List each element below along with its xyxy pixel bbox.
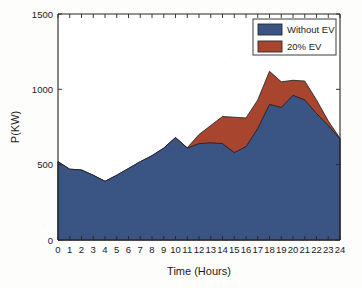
x-tick-label: 1 [67, 244, 72, 255]
x-tick-label: 3 [91, 244, 96, 255]
x-tick-label: 0 [55, 244, 60, 255]
x-axis-tick-labels: 0123456789101112131415161718192021222324 [55, 244, 345, 255]
y-tick-label: 1500 [32, 9, 53, 20]
x-tick-label: 22 [311, 244, 322, 255]
x-tick-label: 4 [102, 244, 107, 255]
y-tick-label: 500 [37, 159, 53, 170]
legend-swatch [258, 41, 282, 52]
x-tick-label: 2 [79, 244, 84, 255]
x-tick-label: 10 [170, 244, 181, 255]
x-tick-label: 24 [335, 244, 346, 255]
x-tick-label: 6 [126, 244, 131, 255]
x-tick-label: 18 [264, 244, 275, 255]
area-chart: 0123456789101112131415161718192021222324… [0, 0, 362, 288]
x-tick-label: 11 [182, 244, 192, 255]
y-axis-label: P(KW) [9, 111, 21, 143]
y-tick-label: 1000 [32, 84, 53, 95]
legend-label: Without EV [287, 24, 335, 35]
y-tick-label: 0 [48, 235, 53, 246]
legend-swatch [258, 24, 282, 35]
x-axis-label: Time (Hours) [167, 265, 231, 277]
x-tick-label: 8 [149, 244, 154, 255]
x-tick-label: 21 [299, 244, 310, 255]
x-tick-label: 14 [217, 244, 228, 255]
x-tick-label: 17 [252, 244, 263, 255]
x-tick-label: 15 [229, 244, 240, 255]
x-tick-label: 13 [205, 244, 216, 255]
x-tick-label: 20 [288, 244, 299, 255]
chart-legend[interactable]: Without EV20% EV [253, 19, 336, 55]
x-tick-label: 9 [161, 244, 166, 255]
x-tick-label: 7 [138, 244, 143, 255]
legend-label: 20% EV [287, 41, 322, 52]
y-axis-tick-labels: 050010001500 [32, 9, 53, 246]
x-tick-label: 23 [323, 244, 334, 255]
x-tick-label: 5 [114, 244, 119, 255]
x-tick-label: 16 [241, 244, 252, 255]
x-tick-label: 12 [194, 244, 205, 255]
x-tick-label: 19 [276, 244, 287, 255]
chart-figure: 0123456789101112131415161718192021222324… [0, 0, 362, 288]
